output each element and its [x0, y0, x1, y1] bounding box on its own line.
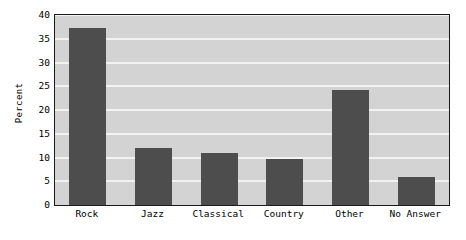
y-axis-tick-labels: 0510152025303540 — [26, 14, 50, 206]
bar — [398, 177, 435, 206]
bar — [201, 153, 238, 205]
x-axis-tick-label: Other — [335, 208, 364, 219]
bar — [332, 90, 369, 205]
bar — [69, 28, 106, 205]
y-axis-tick-label: 5 — [44, 175, 50, 186]
y-axis-tick-label: 25 — [39, 80, 50, 91]
x-axis-tick-label: Country — [264, 208, 304, 219]
plot-area — [54, 14, 450, 206]
bar — [135, 148, 172, 205]
y-axis-tick-label: 10 — [39, 151, 50, 162]
x-axis-tick-label: Rock — [75, 208, 98, 219]
y-axis-tick-label: 20 — [39, 104, 50, 115]
y-axis-tick-label: 15 — [39, 127, 50, 138]
y-axis-tick-label: 40 — [39, 9, 50, 20]
y-axis-title-text: Percent — [14, 82, 24, 123]
bar-chart-figure: Percent 0510152025303540 RockJazzClassic… — [0, 0, 466, 240]
x-axis-tick-label: No Answer — [389, 208, 440, 219]
bar — [266, 159, 303, 205]
x-axis-tick-label: Classical — [192, 208, 243, 219]
y-axis-tick-label: 0 — [44, 199, 50, 210]
bar-series — [55, 15, 449, 205]
x-axis-tick-label: Jazz — [141, 208, 164, 219]
y-axis-tick-label: 35 — [39, 32, 50, 43]
x-axis-tick-labels: RockJazzClassicalCountryOtherNo Answer — [54, 208, 450, 228]
y-axis-tick-label: 30 — [39, 56, 50, 67]
